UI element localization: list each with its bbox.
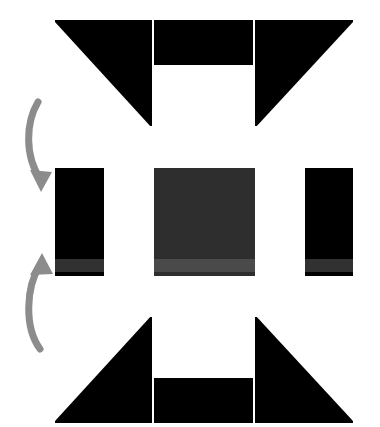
bottom-panel-divider-right [253,315,255,423]
middle-panel-right-white-bar [255,168,305,276]
center-rectangle-bottom-shape [154,65,253,126]
arrow-bottom-to-middle-icon [18,245,78,355]
middle-pattern-panel [55,168,353,276]
bottom-panel-center-cell [154,315,253,423]
top-panel-divider-left [152,20,154,128]
triangle-upper-right-shape [255,315,353,421]
triangle-lower-right-shape [255,22,353,128]
arrow-top-to-middle-icon [18,96,78,206]
bottom-pattern-panel [55,315,353,423]
top-panel-divider-right [253,20,255,128]
lower-gray-band-center [154,259,255,272]
bottom-panel-right-cell [255,315,353,423]
bottom-panel-topline [55,315,353,317]
figure-canvas [0,0,380,427]
top-panel-center-cell [154,20,253,128]
middle-panel-left-white-bar [104,168,154,276]
bottom-panel-divider-left [152,315,154,423]
top-pattern-panel [55,20,353,128]
top-panel-baseline [55,126,353,128]
center-rectangle-top-shape [154,317,253,378]
top-panel-right-cell [255,20,353,128]
